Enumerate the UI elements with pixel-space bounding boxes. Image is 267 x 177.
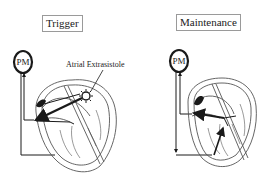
sa-node-icon [194,96,204,105]
conduction-arrows [194,113,236,155]
pacemaker-icon: PM [170,50,188,72]
extrasystole-burst-icon [79,89,93,103]
panel-maintenance: PM [170,50,256,167]
pacemaker-label: PM [172,56,185,66]
heart-outline [36,80,116,172]
atrial-extrasistole-label: Atrial Extrasistole [66,60,124,69]
panel-trigger: PM [14,51,116,172]
heart-outline [188,78,256,167]
panel-title-trigger: Trigger [42,15,83,32]
pacemaker-label: PM [16,57,29,67]
annotation-leader-line [91,70,103,91]
panel-title-maintenance: Maintenance [176,14,241,31]
pacemaker-icon: PM [14,51,32,73]
